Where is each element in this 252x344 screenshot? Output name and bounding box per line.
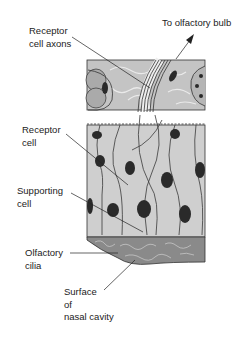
olfactory-epithelium-diagram (0, 0, 252, 344)
label-olfactory-cilia: Olfactory cilia (25, 247, 63, 272)
label-line: cell axons (29, 38, 71, 51)
label-receptor-cell-axons: Receptor cell axons (29, 25, 71, 50)
label-line: cell (17, 198, 63, 211)
label-line: Olfactory (25, 247, 63, 260)
arrow-to-olfactory-bulb-icon (186, 34, 194, 44)
label-line: cilia (25, 260, 63, 273)
label-line: Receptor (22, 124, 61, 137)
label-line: Surface (64, 286, 114, 299)
label-surface-of-nasal-cavity: Surface of nasal cavity (64, 286, 114, 324)
label-line: nasal cavity (64, 311, 114, 324)
label-line: Receptor (29, 25, 71, 38)
label-line: of (64, 299, 114, 312)
label-supporting-cell: Supporting cell (17, 185, 63, 210)
label-receptor-cell: Receptor cell (22, 124, 61, 149)
label-to-olfactory-bulb: To olfactory bulb (162, 17, 231, 30)
label-line: To olfactory bulb (162, 17, 231, 30)
label-line: Supporting (17, 185, 63, 198)
label-line: cell (22, 137, 61, 150)
